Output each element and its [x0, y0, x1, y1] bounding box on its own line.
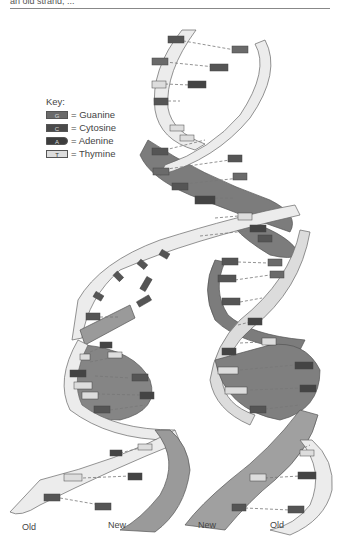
- legend-label: = Guanine: [71, 109, 115, 120]
- legend-item-adenine: A = Adenine: [46, 134, 116, 147]
- dna-replication-diagram: [0, 0, 344, 546]
- legend-label: = Cytosine: [71, 122, 116, 133]
- legend-title: Key:: [46, 96, 116, 107]
- legend-label: = Thymine: [71, 148, 115, 159]
- cytosine-swatch-icon: C: [46, 124, 68, 132]
- legend-item-thymine: T = Thymine: [46, 147, 116, 160]
- legend-label: = Adenine: [71, 135, 114, 146]
- legend-item-guanine: G = Guanine: [46, 108, 116, 121]
- legend: Key: G = Guanine C = Cytosine A = Adenin…: [46, 96, 116, 160]
- parent-old-strand-top: [154, 30, 205, 150]
- thymine-swatch-icon: T: [46, 150, 68, 158]
- label-right-old: Old: [270, 520, 284, 530]
- label-left-old: Old: [22, 522, 36, 532]
- legend-item-cytosine: C = Cytosine: [46, 121, 116, 134]
- guanine-swatch-icon: G: [46, 111, 68, 119]
- label-left-new: New: [108, 520, 126, 530]
- adenine-swatch-icon: A: [46, 137, 68, 145]
- label-right-new: New: [198, 520, 216, 530]
